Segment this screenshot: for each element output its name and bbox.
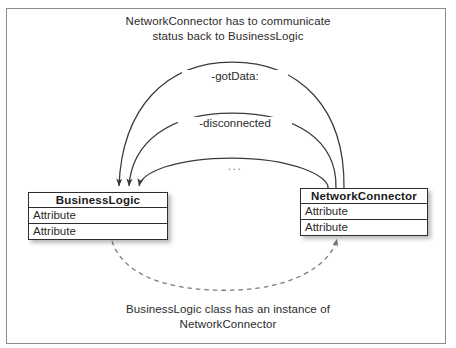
class-title-networkconnector: NetworkConnector — [301, 189, 427, 204]
message-label-ellipsis: ... — [212, 160, 258, 173]
caption-bottom: BusinessLogic class has an instance of N… — [78, 302, 378, 331]
class-box-businesslogic[interactable]: BusinessLogic Attribute Attribute — [28, 192, 168, 240]
class-attribute: Attribute — [301, 220, 427, 236]
class-box-networkconnector[interactable]: NetworkConnector Attribute Attribute — [300, 188, 428, 236]
class-title-businesslogic: BusinessLogic — [29, 193, 167, 208]
class-attribute: Attribute — [29, 224, 167, 240]
message-label-gotdata: -gotData: — [182, 70, 288, 83]
class-attribute: Attribute — [29, 208, 167, 224]
message-label-disconnected: -disconnected — [178, 117, 292, 130]
class-attribute: Attribute — [301, 204, 427, 220]
uml-diagram-figure: NetworkConnector has to communicate stat… — [0, 0, 456, 348]
caption-top: NetworkConnector has to communicate stat… — [78, 14, 378, 43]
figure-frame — [6, 8, 446, 344]
